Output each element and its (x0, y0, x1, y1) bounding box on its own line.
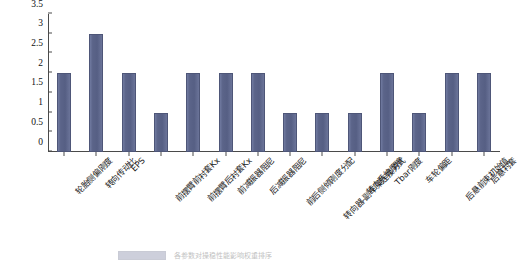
bar (412, 113, 426, 152)
x-axis-label-slot: 轮胎侧偏刚度 (48, 152, 80, 236)
bar-slot (80, 14, 112, 152)
bar-slot (113, 14, 145, 152)
x-axis-category-labels: 轮胎侧偏刚度转向传动比EPS前摆臂前衬套Kx前摆臂后衬套Kx前减振器阻尼后减振器… (48, 152, 500, 236)
figure-caption-text: 各参数对操稳性能影响权重排序 (174, 252, 272, 260)
x-axis-label-slot: 后悬衬套 (468, 152, 500, 236)
bar-slot (435, 14, 467, 152)
legend-color-swatch (118, 251, 166, 260)
bar (122, 73, 136, 152)
bar (57, 73, 71, 152)
x-axis-label-slot: 转向器-副车架连接方式 (306, 152, 338, 236)
plot-area: 00.511.522.533.5 (48, 14, 500, 152)
x-axis-label-slot: 车轮偏距 (403, 152, 435, 236)
y-axis-tick-label: 0 (38, 138, 48, 148)
bar (348, 113, 362, 152)
y-axis-tick-label: 0.5 (31, 118, 48, 128)
bar (380, 73, 394, 152)
bar-slot (371, 14, 403, 152)
x-axis-label-slot: 前后侧倾刚度分配 (274, 152, 306, 236)
bar-slot (306, 14, 338, 152)
y-axis-tick-label: 2.5 (31, 39, 48, 49)
x-axis-label-slot: 后减振器阻尼 (242, 152, 274, 236)
bar-slot (339, 14, 371, 152)
bar (315, 113, 329, 152)
bar-slot (468, 14, 500, 152)
bar-slot (242, 14, 274, 152)
y-axis-tick-label: 1 (38, 98, 48, 108)
y-axis-tick-label: 1.5 (31, 79, 48, 89)
y-axis-tick-label: 3 (38, 19, 48, 29)
x-axis-label-slot: EPS (113, 152, 145, 236)
bar (219, 73, 233, 152)
bar (154, 113, 168, 152)
y-axis-tick-label: 2 (38, 59, 48, 69)
figure-caption-strip: 各参数对操稳性能影响权重排序 (0, 251, 516, 261)
bar-slot (177, 14, 209, 152)
bar-slot (145, 14, 177, 152)
x-axis-label-slot: 前摆臂前衬套Kx (145, 152, 177, 236)
bar (186, 73, 200, 152)
y-axis-tick-label: 3.5 (31, 0, 48, 9)
x-axis-label-slot: 转向传动比 (80, 152, 112, 236)
bar (445, 73, 459, 152)
x-axis-label-slot: 前减振器阻尼 (209, 152, 241, 236)
bar-slot (274, 14, 306, 152)
bar-slot (48, 14, 80, 152)
bar (89, 34, 103, 152)
bar-series (48, 14, 500, 152)
bar-slot (403, 14, 435, 152)
bar (477, 73, 491, 152)
bar (283, 113, 297, 152)
x-axis-label-slot: Tbar刚度 (371, 152, 403, 236)
x-axis-label-slot: 前摆臂后衬套Kx (177, 152, 209, 236)
bar (251, 73, 265, 152)
bar-slot (209, 14, 241, 152)
x-axis-label-slot: 后悬前束初始值 (435, 152, 467, 236)
x-axis-label-slot: 转向系统摩擦 (339, 152, 371, 236)
